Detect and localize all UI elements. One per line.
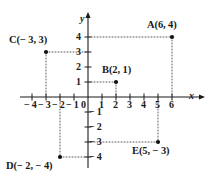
y-tick-label-1: 1 xyxy=(76,77,81,87)
point-label-a: A(6, 4) xyxy=(147,20,177,31)
y-axis-name: y xyxy=(80,14,84,24)
x-tick-label-6: 6 xyxy=(169,100,174,110)
point-label-b: B(2, 1) xyxy=(102,65,131,76)
point-label-c: C(− 3, 3) xyxy=(9,35,47,46)
y-tick-label-2: 2 xyxy=(76,62,81,72)
y-tick-label--2: − 2 xyxy=(89,122,102,132)
y-tick-label--1: − 1 xyxy=(89,107,102,117)
coordinate-plane-figure: y x − 4 − 3 − 2 − 1 0 1 2 3 4 5 6 4 3 2 … xyxy=(0,0,211,178)
point-b xyxy=(114,80,118,84)
y-tick-label-3: 3 xyxy=(76,47,81,57)
plot-canvas xyxy=(0,0,211,178)
y-axis-arrowhead xyxy=(85,12,90,18)
axes-group xyxy=(20,12,205,168)
point-label-d: D(− 2, − 4) xyxy=(6,161,52,172)
x-tick-label--4: − 4 xyxy=(24,100,37,110)
origin-label: 0 xyxy=(81,100,86,110)
y-tick-label--3: − 3 xyxy=(89,137,102,147)
point-a xyxy=(170,35,174,39)
x-tick-label--2: − 2 xyxy=(52,100,65,110)
point-d xyxy=(58,155,62,159)
x-tick-label--1: − 1 xyxy=(66,100,79,110)
x-tick-label--3: − 3 xyxy=(38,100,51,110)
x-tick-label-3: 3 xyxy=(127,100,132,110)
x-axis-name: x xyxy=(189,91,194,101)
point-e xyxy=(156,140,160,144)
point-c xyxy=(44,50,48,54)
x-tick-label-2: 2 xyxy=(113,100,118,110)
x-tick-label-5: 5 xyxy=(155,100,160,110)
y-tick-label-4: 4 xyxy=(76,32,81,42)
y-tick-label--4: − 4 xyxy=(89,152,102,162)
x-tick-label-4: 4 xyxy=(141,100,146,110)
point-label-e: E(5, − 3) xyxy=(132,146,169,157)
x-axis-arrowhead xyxy=(199,94,205,99)
